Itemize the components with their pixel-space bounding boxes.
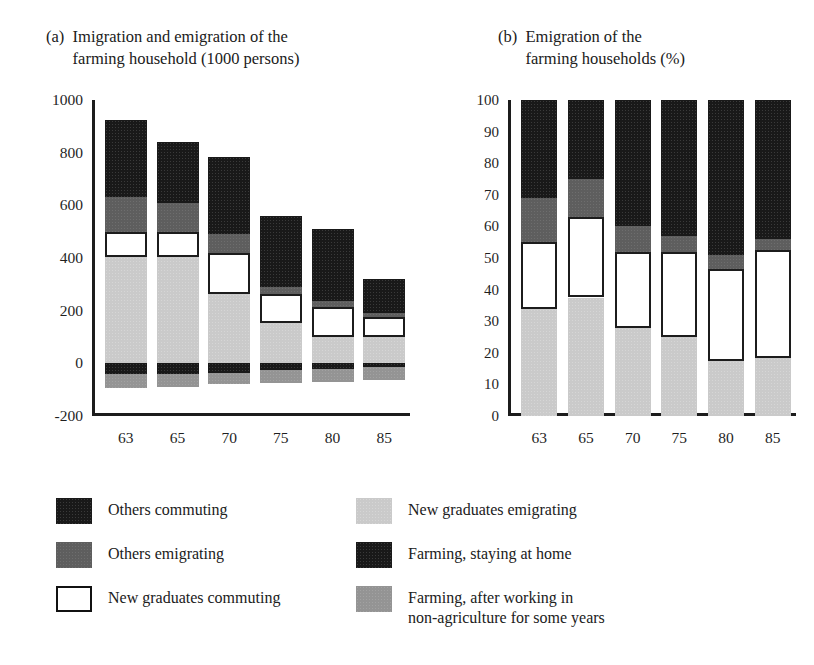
bar-segment-b-80-0 — [708, 361, 744, 416]
y-tick-b-3: 70 — [484, 187, 499, 202]
legend-label-new-graduates-emigrating: New graduates emigrating — [408, 498, 577, 520]
x-tick-b-80: 80 — [718, 430, 734, 446]
y-tick-a-1: 800 — [60, 145, 83, 161]
bar-segment-b-85-2 — [755, 239, 791, 250]
bar-b-63 — [521, 100, 557, 416]
legend-item-new-graduates-commuting: New graduates commuting — [56, 586, 280, 612]
bar-segment-b-85-3 — [755, 100, 791, 239]
bar-segment-a-70-3 — [208, 294, 250, 364]
y-tick-a-2: 600 — [60, 198, 83, 214]
bar-segment-a-70-2 — [208, 253, 250, 294]
bar-segment-a-65-3 — [157, 257, 199, 364]
x-tick-a-65: 65 — [170, 430, 186, 446]
bar-segment-a-70-0 — [208, 157, 250, 235]
bar-segment-a-85-0 — [363, 279, 405, 313]
y-tick-b-8: 20 — [484, 345, 499, 360]
bar-segment-a-65-5 — [157, 374, 199, 387]
y-tick-b-10: 0 — [492, 409, 500, 424]
bar-segment-a-63-3 — [105, 257, 147, 364]
bar-segment-b-75-3 — [661, 100, 697, 236]
bar-segment-a-65-1 — [157, 203, 199, 232]
bar-segment-a-63-2 — [105, 232, 147, 257]
bar-a-63 — [105, 100, 147, 416]
bar-segment-b-75-2 — [661, 236, 697, 252]
legend-label-farming-staying-home: Farming, staying at home — [408, 542, 572, 564]
bar-segment-a-65-2 — [157, 232, 199, 257]
panel-a-title-text: Imigration and emigration of the farming… — [73, 26, 300, 70]
bar-segment-a-80-3 — [312, 337, 354, 363]
x-tick-a-80: 80 — [325, 430, 341, 446]
bar-b-75 — [661, 100, 697, 416]
bar-segment-a-70-1 — [208, 234, 250, 252]
x-tick-a-70: 70 — [221, 430, 237, 446]
bar-segment-b-63-1 — [521, 242, 557, 308]
bar-segment-b-70-2 — [615, 226, 651, 251]
legend-swatch-others-emigrating — [56, 542, 92, 568]
bar-a-65 — [157, 100, 199, 416]
x-tick-b-70: 70 — [625, 430, 641, 446]
y-tick-a-6: -200 — [55, 408, 83, 424]
x-tick-b-85: 85 — [765, 430, 781, 446]
bar-segment-a-80-2 — [312, 307, 354, 337]
x-tick-a-75: 75 — [273, 430, 289, 446]
legend-swatch-farming-staying-home — [356, 542, 392, 568]
legend-swatch-new-graduates-commuting — [56, 586, 92, 612]
bar-segment-a-75-3 — [260, 323, 302, 364]
bar-segment-b-63-3 — [521, 100, 557, 198]
legend-item-others-emigrating: Others emigrating — [56, 542, 280, 568]
bar-segment-b-65-3 — [568, 100, 604, 179]
bar-segment-b-65-1 — [568, 217, 604, 298]
y-tick-a-3: 400 — [60, 250, 83, 266]
bar-segment-a-70-5 — [208, 373, 250, 385]
bar-segment-a-63-5 — [105, 374, 147, 388]
y-axis-b — [508, 100, 511, 416]
y-tick-a-0: 1000 — [52, 92, 83, 108]
panel-b-title: (b) Emigration of the farming households… — [498, 26, 685, 70]
bar-b-70 — [615, 100, 651, 416]
chart-panel-b: 1009080706050403020100 636570758085 — [508, 100, 796, 416]
bar-segment-a-63-0 — [105, 120, 147, 198]
legend-label-others-emigrating: Others emigrating — [108, 542, 224, 564]
bar-segment-a-65-4 — [157, 363, 199, 374]
bar-b-65 — [568, 100, 604, 416]
bar-segment-b-80-3 — [708, 100, 744, 255]
bar-segment-a-85-2 — [363, 317, 405, 337]
bar-b-80 — [708, 100, 744, 416]
bar-segment-b-65-0 — [568, 298, 604, 417]
bar-segment-a-70-4 — [208, 363, 250, 372]
panel-a-title: (a) Imigration and emigration of the far… — [46, 26, 299, 70]
bar-segment-b-63-0 — [521, 309, 557, 416]
legend-left: Others commutingOthers emigratingNew gra… — [56, 498, 280, 630]
panel-b-title-text: Emigration of the farming households (%) — [526, 26, 685, 70]
bar-segment-a-80-0 — [312, 229, 354, 301]
legend-item-others-commuting: Others commuting — [56, 498, 280, 524]
bar-segment-a-65-0 — [157, 142, 199, 203]
y-tick-b-6: 40 — [484, 282, 499, 297]
bar-segment-b-70-1 — [615, 252, 651, 328]
x-tick-a-63: 63 — [118, 430, 134, 446]
figure-root: (a) Imigration and emigration of the far… — [0, 0, 814, 665]
bar-a-80 — [312, 100, 354, 416]
panel-a-tag: (a) — [46, 27, 64, 46]
panel-b-tag: (b) — [498, 27, 517, 46]
bar-b-85 — [755, 100, 791, 416]
x-tick-a-85: 85 — [376, 430, 392, 446]
legend-label-others-commuting: Others commuting — [108, 498, 228, 520]
bar-segment-a-75-2 — [260, 294, 302, 323]
y-tick-b-4: 60 — [484, 219, 499, 234]
legend-item-new-graduates-emigrating: New graduates emigrating — [356, 498, 605, 524]
bar-segment-a-63-1 — [105, 197, 147, 231]
x-tick-b-75: 75 — [672, 430, 688, 446]
bar-segment-b-70-0 — [615, 328, 651, 416]
y-tick-b-9: 10 — [484, 377, 499, 392]
y-tick-b-1: 90 — [484, 124, 499, 139]
legend-swatch-farming-after-nonagriculture — [356, 586, 392, 612]
bar-a-75 — [260, 100, 302, 416]
bar-segment-b-65-2 — [568, 179, 604, 217]
bar-segment-b-75-0 — [661, 337, 697, 416]
legend-label-new-graduates-commuting: New graduates commuting — [108, 586, 280, 608]
bar-segment-a-85-3 — [363, 337, 405, 363]
bar-segment-a-80-5 — [312, 369, 354, 382]
bar-segment-b-80-1 — [708, 269, 744, 361]
bar-a-70 — [208, 100, 250, 416]
